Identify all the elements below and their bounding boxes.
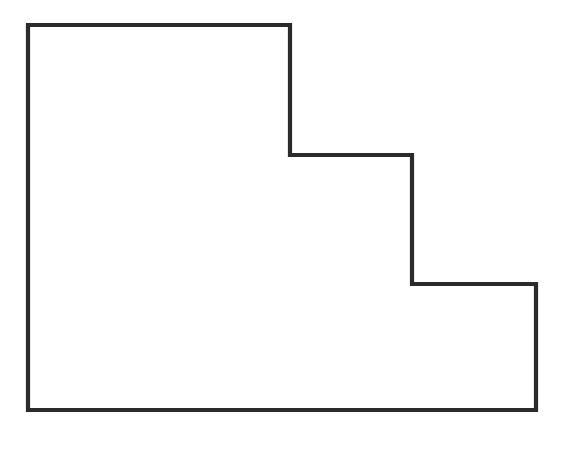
figure-canvas [0, 0, 566, 449]
staircase-grid-diagram [0, 0, 566, 449]
